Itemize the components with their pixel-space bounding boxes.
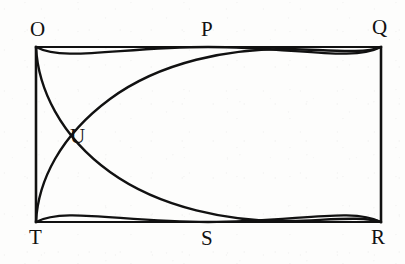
vertex-label-O: O: [30, 19, 45, 40]
arc-O-to-R: [36, 47, 381, 222]
vertex-label-P: P: [201, 19, 213, 40]
geometry-figure: O P Q U T S R: [0, 0, 405, 264]
vertex-label-S: S: [201, 228, 213, 249]
vertex-label-R: R: [371, 227, 385, 248]
vertex-label-T: T: [29, 227, 42, 248]
vertex-label-U: U: [70, 126, 85, 147]
arc-T-to-Q: [36, 47, 381, 222]
vertex-label-Q: Q: [372, 17, 387, 38]
rectangle-OQRT: [36, 47, 381, 222]
